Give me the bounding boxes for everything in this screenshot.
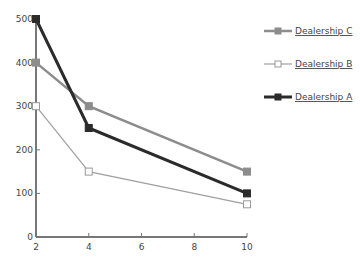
y-tick-label: 500 bbox=[16, 14, 33, 24]
data-point-marker bbox=[33, 59, 40, 66]
data-point-marker bbox=[244, 190, 251, 197]
y-tick-label: 300 bbox=[16, 101, 33, 111]
data-point-marker bbox=[85, 168, 92, 175]
data-point-marker bbox=[33, 16, 40, 23]
y-tick-label: 400 bbox=[16, 58, 33, 68]
series-line bbox=[36, 19, 247, 193]
legend-item: Dealership B bbox=[264, 59, 352, 69]
legend: Dealership CDealership BDealership A bbox=[264, 26, 353, 102]
x-tick-label: 2 bbox=[33, 242, 39, 252]
series-line bbox=[36, 63, 247, 172]
data-point-marker bbox=[85, 125, 92, 132]
series-dealership-b bbox=[33, 103, 251, 208]
plot-area bbox=[33, 16, 251, 208]
legend-label: Dealership A bbox=[295, 92, 353, 102]
x-tick-label: 8 bbox=[191, 242, 197, 252]
legend-label: Dealership B bbox=[295, 59, 352, 69]
y-tick-label: 200 bbox=[16, 145, 33, 155]
data-point-marker bbox=[85, 103, 92, 110]
series-dealership-a bbox=[33, 16, 251, 197]
legend-item: Dealership C bbox=[264, 26, 352, 36]
data-point-marker bbox=[33, 103, 40, 110]
series-line bbox=[36, 106, 247, 204]
data-point-marker bbox=[275, 61, 281, 67]
data-point-marker bbox=[275, 94, 281, 100]
x-tick-label: 6 bbox=[139, 242, 145, 252]
data-point-marker bbox=[244, 168, 251, 175]
x-tick-label: 4 bbox=[86, 242, 92, 252]
legend-item: Dealership A bbox=[264, 92, 353, 102]
data-point-marker bbox=[244, 201, 251, 208]
data-point-marker bbox=[275, 28, 281, 34]
line-chart: 0100200300400500246810 Dealership CDeale… bbox=[0, 0, 360, 265]
x-tick-label: 10 bbox=[241, 242, 253, 252]
y-tick-label: 0 bbox=[27, 232, 33, 242]
legend-label: Dealership C bbox=[295, 26, 352, 36]
y-tick-label: 100 bbox=[16, 188, 33, 198]
